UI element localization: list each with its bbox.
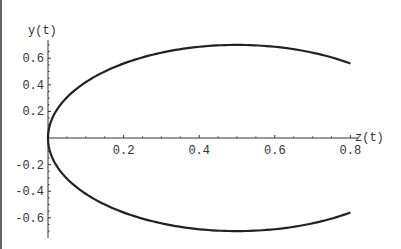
y-tick-label: -0.6 bbox=[15, 212, 44, 226]
x-tick-label: 0.4 bbox=[188, 144, 210, 158]
y-tick-label: 0.4 bbox=[22, 79, 44, 93]
x-axis-label: z(t) bbox=[355, 131, 384, 145]
y-tick-label: -0.2 bbox=[15, 159, 44, 173]
x-tick-label: 0.2 bbox=[113, 144, 135, 158]
axes bbox=[48, 40, 358, 238]
tick-labels: 0.20.40.60.80.60.40.2-0.2-0.4-0.6 bbox=[15, 52, 361, 226]
y-axis-label: y(t) bbox=[28, 24, 57, 38]
y-tick-label: 0.2 bbox=[22, 105, 44, 119]
chart-plot: 0.20.40.60.80.60.40.2-0.2-0.4-0.6 z(t) y… bbox=[0, 0, 401, 249]
x-tick-label: 0.8 bbox=[340, 144, 362, 158]
x-tick-label: 0.6 bbox=[264, 144, 286, 158]
y-tick-label: 0.6 bbox=[22, 52, 44, 66]
y-tick-label: -0.4 bbox=[15, 185, 44, 199]
